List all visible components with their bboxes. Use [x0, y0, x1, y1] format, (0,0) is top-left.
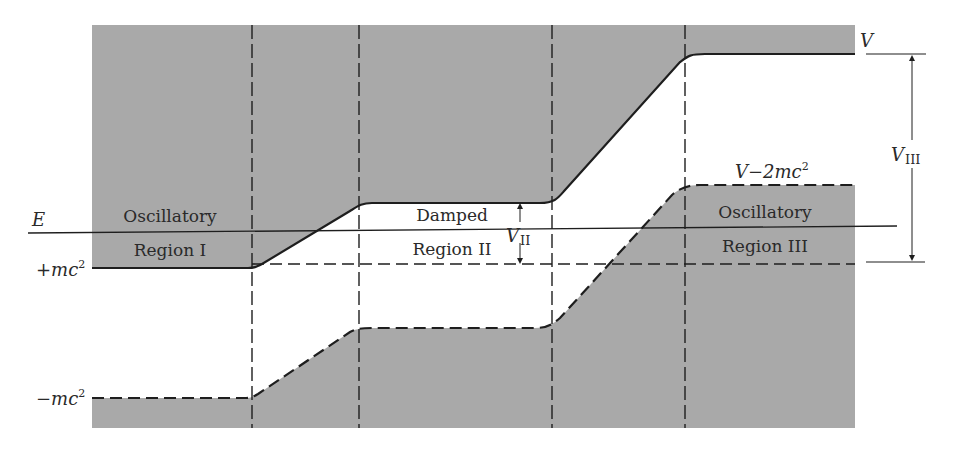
label-v-iii: VIII [891, 144, 920, 167]
label-e: E [31, 209, 45, 230]
label-plus-mc2: +mc2 [36, 258, 85, 280]
region-2-line1: Damped [416, 205, 488, 225]
label-minus-mc2: −mc2 [36, 387, 85, 409]
region-2-line2: Region II [412, 239, 491, 259]
region-1-line1: Oscillatory [123, 206, 217, 226]
klein-paradox-diagram: E +mc2 −mc2 V V−2mc2 VIII VII Oscillator… [0, 0, 954, 457]
label-v-minus-2mc2: V−2mc2 [735, 160, 809, 182]
region-3-line1: Oscillatory [718, 202, 812, 222]
label-v: V [860, 30, 875, 51]
region-1-line2: Region I [134, 240, 206, 260]
region-3-line2: Region III [722, 236, 808, 256]
